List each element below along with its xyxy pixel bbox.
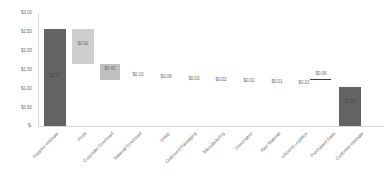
bar-profit (72, 29, 94, 64)
y-tick-label: $2.00 (2, 48, 32, 53)
x-label-purchased-parts: Purchased Parts (282, 131, 336, 179)
x-label-manufacturing: Manufacturing (171, 131, 225, 179)
x-label-profit: Profit (33, 131, 87, 179)
y-tick-label: $1.50 (2, 67, 32, 72)
value-label-manufacturing: $0.02 (207, 77, 235, 82)
x-axis-line (38, 126, 384, 127)
y-tick-label: $- (2, 123, 32, 128)
y-tick-label: $0.50 (2, 105, 32, 110)
waterfall-chart: $3.00 $2.50 $2.00 $1.50 $1.00 $0.50 $- $… (0, 0, 386, 179)
x-label-supplier-estimate: Supplier estimate (5, 131, 59, 179)
x-label-raw-material: Raw Material (227, 131, 281, 179)
x-label-outbound-packaging: Outbound Packaging (143, 131, 197, 179)
value-label-inbound-logistics: $0.01 (290, 80, 318, 85)
bar-customer-estimate (339, 87, 361, 126)
value-label-material-overhead: $0.10 (124, 72, 152, 77)
y-axis-line (38, 13, 39, 127)
y-tick-label: $2.50 (2, 29, 32, 34)
value-label-purchased-parts: $0.06 (307, 71, 335, 76)
value-label-corporate-overhead: $0.42 (96, 66, 124, 71)
value-label-outbound-packaging: $0.03 (180, 76, 208, 81)
y-tick-label: $3.00 (2, 10, 32, 15)
value-label-direct-labor: $0.02 (235, 78, 263, 83)
value-label-supplier-estimate: $2.57 (41, 73, 69, 78)
x-label-corporate-overhead: Corporate Overhead (60, 131, 114, 179)
x-label-setup: Setup (116, 131, 170, 179)
y-tick-label: $1.00 (2, 86, 32, 91)
x-label-direct-labor: Direct labor (199, 131, 253, 179)
value-label-profit: $0.92 (69, 41, 97, 46)
value-label-customer-estimate: $1.03 (336, 99, 364, 104)
value-label-raw-material: $0.01 (263, 79, 291, 84)
x-label-material-overhead: Material Overhead (88, 131, 142, 179)
value-label-setup: $0.09 (152, 74, 180, 79)
x-label-inbound-logistics: Inbound Logistics (254, 131, 308, 179)
x-label-customer-estimate: Customer estimate (310, 131, 364, 179)
